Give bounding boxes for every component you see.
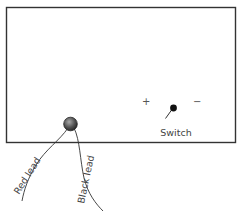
black-lead-label: Black lead — [75, 154, 96, 204]
switch-minus-sign: − — [193, 96, 201, 107]
switch-pivot-icon[interactable] — [170, 105, 177, 112]
terminal-knob-icon[interactable] — [64, 117, 78, 131]
instrument-diagram: Red lead Black lead + − Switch — [0, 0, 237, 220]
switch-plus-sign: + — [142, 96, 150, 107]
red-lead-label: Red lead — [11, 155, 42, 196]
switch-label: Switch — [160, 127, 191, 138]
instrument-body — [7, 8, 236, 143]
